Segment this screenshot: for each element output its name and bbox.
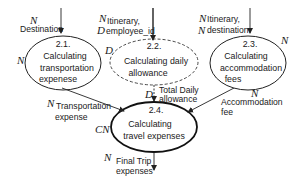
- flow-into-2-3-tag-2: N: [197, 24, 206, 36]
- node-2-1-line-2: transportation: [40, 63, 94, 73]
- flow-from-2-4-line-2: expenses: [116, 166, 153, 176]
- flow-into-2-3-line-2: destination: [207, 25, 249, 35]
- node-2-2[interactable]: 2.2. Calculating daily allowance: [110, 39, 198, 85]
- flow-into-2-2-line-1: Itinerary,: [107, 16, 140, 26]
- node-2-1-number: 2.1.: [56, 39, 71, 49]
- node-2-4-line-2: travel expenses: [123, 131, 185, 141]
- flow-from-2-2-line-2: allowance: [159, 94, 197, 104]
- node-2-3-annotation: N: [280, 34, 289, 46]
- flow-from-2-3-line-2: fee: [221, 107, 233, 117]
- process-diagram: 2.1. Calculating transportation expenese…: [0, 0, 307, 186]
- node-2-1-line-1: Calculating: [43, 51, 87, 61]
- node-2-1-annotation: N: [16, 54, 25, 66]
- node-2-4-line-1: Calculating: [128, 119, 172, 129]
- node-2-3-line-2: accommodation: [220, 63, 282, 73]
- flow-into-2-2-tag-1: N: [98, 12, 107, 24]
- node-2-3-number: 2.3.: [243, 39, 258, 49]
- node-2-2-line-2: allowance: [128, 68, 167, 78]
- flow-from-2-4-line-1: Final Trip: [116, 156, 152, 166]
- flow-from-2-1-tag: N: [46, 97, 55, 109]
- node-2-3-line-3: fees: [225, 74, 242, 84]
- node-2-4[interactable]: 2.4. Calculating travel expenses: [111, 102, 197, 152]
- node-2-2-line-1: Calculating daily: [124, 56, 189, 66]
- flow-from-2-4-tag: N: [103, 151, 112, 163]
- node-2-1[interactable]: 2.1. Calculating transportation expenese: [25, 36, 101, 90]
- node-2-4-number: 2.4.: [149, 105, 164, 115]
- flow-into-2-3-line-1: Itinerary,: [207, 14, 240, 24]
- flow-from-2-2-tag: D: [144, 88, 153, 100]
- flow-from-2-3-line-1: Accommodation: [221, 97, 283, 107]
- flow-from-2-1-line-2: expense: [55, 112, 88, 122]
- node-2-1-line-3: expenese: [39, 74, 77, 84]
- flow-into-2-2-line-2: employee_id: [106, 26, 155, 36]
- node-2-3[interactable]: 2.3. Calculating accommodation fees: [210, 36, 286, 90]
- node-2-3-line-1: Calculating: [224, 51, 268, 61]
- node-2-4-annotation: CN: [95, 123, 110, 135]
- flow-into-2-3-tag-1: N: [198, 12, 207, 24]
- node-2-2-number: 2.2.: [147, 41, 162, 51]
- flow-from-2-1-line-1: Transportation: [56, 101, 111, 111]
- flow-into-2-2-tag-2: D: [96, 24, 105, 36]
- node-2-2-annotation: D: [104, 44, 113, 56]
- flow-into-2-1-label: Destination: [20, 24, 63, 34]
